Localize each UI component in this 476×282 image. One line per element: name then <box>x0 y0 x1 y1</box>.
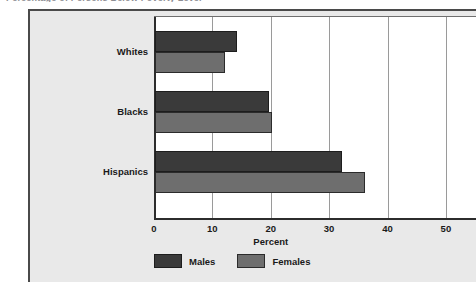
legend: Males Females <box>154 254 310 268</box>
legend-swatch-males-icon <box>154 254 182 268</box>
legend-item-females: Females <box>237 254 310 268</box>
x-tick-50: 50 <box>441 223 452 234</box>
x-tick-0: 0 <box>151 223 156 234</box>
gridline-40 <box>388 17 389 218</box>
legend-label-males: Males <box>189 256 215 267</box>
legend-swatch-females-icon <box>237 254 265 268</box>
bar-blacks-males <box>155 91 269 112</box>
x-axis-title: Percent <box>253 236 288 247</box>
x-tick-10: 10 <box>207 223 218 234</box>
clipped-title-text: Percentage of Persons Below Poverty Leve… <box>6 0 336 2</box>
category-label-whites: Whites <box>32 46 152 57</box>
gridline-50 <box>446 17 447 218</box>
x-tick-20: 20 <box>265 223 276 234</box>
bar-whites-males <box>155 31 237 52</box>
bar-whites-females <box>155 52 225 73</box>
bar-hispanics-males <box>155 151 342 172</box>
plot-area <box>154 16 476 220</box>
chart-screenshot: Percentage of Persons Below Poverty Leve… <box>0 0 476 282</box>
bar-blacks-females <box>155 112 272 133</box>
chart-panel: WhitesBlacksHispanics 01020304050 Percen… <box>28 9 476 282</box>
category-label-hispanics: Hispanics <box>32 166 152 177</box>
legend-label-females: Females <box>272 256 310 267</box>
x-tick-30: 30 <box>324 223 335 234</box>
x-tick-40: 40 <box>382 223 393 234</box>
legend-item-males: Males <box>154 254 215 268</box>
bar-hispanics-females <box>155 172 365 193</box>
category-label-blacks: Blacks <box>32 106 152 117</box>
